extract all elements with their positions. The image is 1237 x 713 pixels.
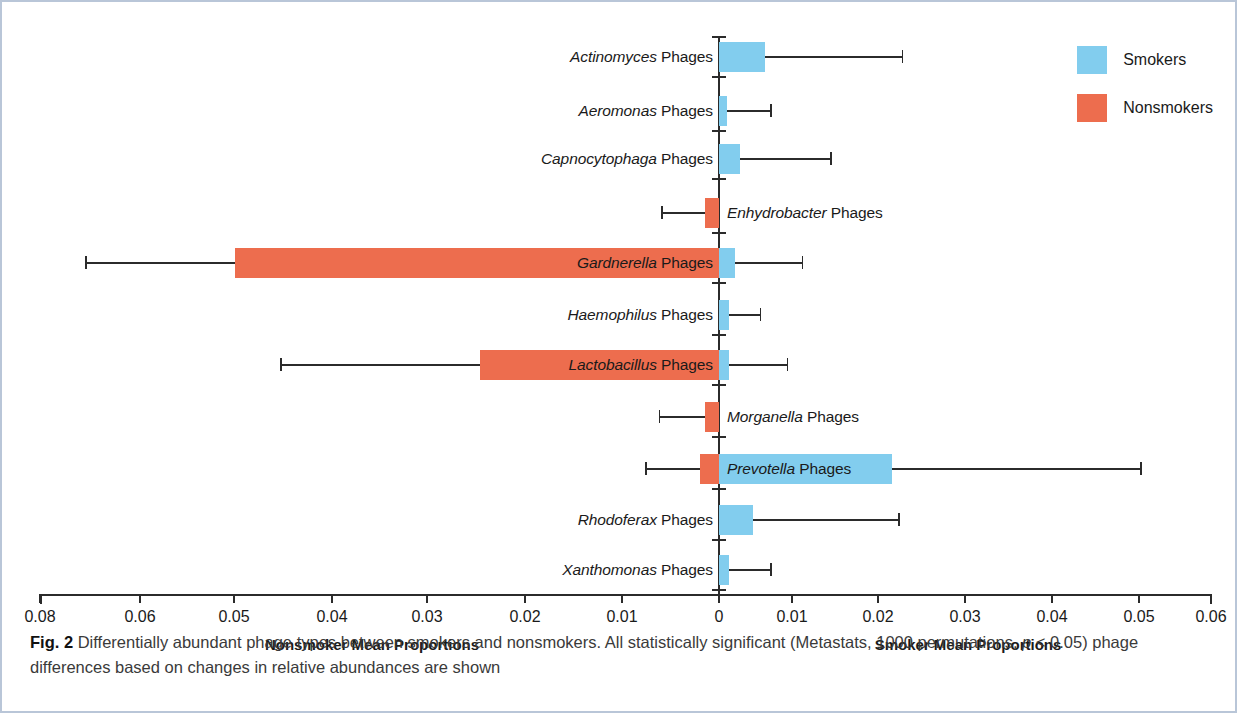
- row-label-suffix: Phages: [657, 150, 713, 167]
- error-bar-cap-nonsmoker: [280, 358, 282, 371]
- legend-label-nonsmokers: Nonsmokers: [1123, 99, 1213, 117]
- chart-row: Gardnerella Phages: [2, 248, 1237, 278]
- category-axis-tick: [712, 178, 726, 180]
- error-bar-cap-smoker: [760, 308, 762, 321]
- error-bar-cap-smoker: [902, 50, 904, 63]
- bar-smoker: [719, 248, 735, 278]
- x-axis-tick-mark: [1138, 594, 1140, 603]
- error-bar-smoker: [753, 519, 898, 521]
- x-axis-tick-label: 0.05: [218, 608, 249, 626]
- x-axis-tick-mark: [39, 594, 41, 603]
- error-bar-cap-nonsmoker: [659, 410, 661, 423]
- bar-smoker: [719, 96, 727, 126]
- bar-nonsmoker: [700, 454, 719, 484]
- error-bar-cap-smoker: [898, 513, 900, 526]
- figure-caption-text-1: Differentially abundant phage types betw…: [78, 633, 1022, 651]
- x-axis-tick-label: 0.08: [24, 608, 55, 626]
- x-axis-tick-label: 0: [715, 608, 724, 626]
- bar-smoker: [719, 505, 753, 535]
- row-label-genus: Haemophilus: [567, 306, 656, 323]
- row-label-genus: Lactobacillus: [569, 356, 657, 373]
- row-label-genus: Enhydrobacter: [727, 204, 827, 221]
- row-label-genus: Rhodoferax: [578, 511, 657, 528]
- x-axis-tick-label: 0.01: [776, 608, 807, 626]
- error-bar-nonsmoker: [280, 364, 480, 366]
- error-bar-cap-smoker: [830, 152, 832, 165]
- chart-row: Capnocytophaga Phages: [2, 144, 1237, 174]
- figure-caption-label: Fig. 2: [30, 633, 73, 651]
- x-axis-tick-mark: [139, 594, 141, 603]
- row-label-suffix: Phages: [657, 561, 713, 578]
- chart-row: Aeromonas Phages: [2, 96, 1237, 126]
- row-label-suffix: Phages: [803, 408, 859, 425]
- x-axis-tick-mark: [621, 594, 623, 603]
- row-label-suffix: Phages: [657, 511, 713, 528]
- x-axis-tick-mark: [964, 594, 966, 603]
- error-bar-cap-smoker: [802, 256, 804, 269]
- x-axis-tick-label: 0.06: [1195, 608, 1226, 626]
- chart-row: Morganella Phages: [2, 402, 1237, 432]
- legend-swatch-nonsmokers-icon: [1077, 94, 1107, 122]
- row-label-lactobacillus: Lactobacillus Phages: [569, 356, 714, 374]
- category-axis-tick: [712, 589, 726, 591]
- error-bar-cap-nonsmoker: [85, 256, 87, 269]
- x-axis-tick-mark: [233, 594, 235, 603]
- x-axis-tick-label: 0.03: [411, 608, 442, 626]
- category-axis-tick: [712, 384, 726, 386]
- error-bar-smoker: [729, 364, 787, 366]
- zero-axis-top-cap: [712, 36, 726, 38]
- row-label-suffix: Phages: [657, 254, 713, 271]
- x-axis-tick-mark: [1051, 594, 1053, 603]
- error-bar-smoker: [740, 158, 830, 160]
- x-axis-tick-label: 0.02: [862, 608, 893, 626]
- category-axis-tick: [712, 334, 726, 336]
- row-label-genus: Morganella: [727, 408, 803, 425]
- x-axis-tick-label: 0.06: [124, 608, 155, 626]
- row-label-prevotella: Prevotella Phages: [727, 460, 851, 478]
- row-label-gardnerella: Gardnerella Phages: [577, 254, 713, 272]
- row-label-morganella: Morganella Phages: [727, 408, 859, 426]
- x-axis-line: [40, 594, 1212, 596]
- row-label-genus: Actinomyces: [570, 48, 657, 65]
- row-label-rhodoferax: Rhodoferax Phages: [578, 511, 713, 529]
- error-bar-smoker: [729, 569, 771, 571]
- row-label-genus: Aeromonas: [578, 102, 656, 119]
- x-axis-tick-mark: [331, 594, 333, 603]
- category-axis-tick: [712, 436, 726, 438]
- error-bar-smoker: [727, 110, 771, 112]
- error-bar-nonsmoker: [661, 212, 704, 214]
- figure-caption-body: Differentially abundant phage types betw…: [30, 633, 1138, 676]
- error-bar-nonsmoker: [659, 416, 705, 418]
- row-label-suffix: Phages: [827, 204, 883, 221]
- category-axis-tick: [712, 539, 726, 541]
- error-bar-cap-smoker: [1140, 462, 1142, 475]
- row-label-suffix: Phages: [657, 102, 713, 119]
- row-label-haemophilus: Haemophilus Phages: [567, 306, 713, 324]
- chart-row: Actinomyces Phages: [2, 42, 1237, 72]
- row-label-enhydrobacter: Enhydrobacter Phages: [727, 204, 883, 222]
- bar-nonsmoker: [705, 198, 719, 228]
- row-label-actinomyces: Actinomyces Phages: [570, 48, 713, 66]
- chart-row: Haemophilus Phages: [2, 300, 1237, 330]
- category-axis-tick: [712, 282, 726, 284]
- x-axis-tick-mark: [718, 594, 720, 603]
- row-label-xanthomonas: Xanthomonas Phages: [562, 561, 713, 579]
- category-axis-tick: [712, 232, 726, 234]
- x-axis-tick-label: 0.04: [1036, 608, 1067, 626]
- row-label-suffix: Phages: [657, 306, 713, 323]
- error-bar-smoker: [729, 314, 760, 316]
- row-label-genus: Gardnerella: [577, 254, 657, 271]
- error-bar-nonsmoker: [85, 262, 235, 264]
- x-axis-tick-label: 0.01: [606, 608, 637, 626]
- category-axis-tick: [712, 130, 726, 132]
- x-axis-tick-label: 0.03: [949, 608, 980, 626]
- error-bar-cap-smoker: [770, 104, 772, 117]
- chart-row: Prevotella Phages: [2, 454, 1237, 484]
- error-bar-smoker: [892, 468, 1140, 470]
- figure-caption: Fig. 2 Differentially abundant phage typ…: [30, 630, 1210, 680]
- legend-item-nonsmokers: Nonsmokers: [1077, 94, 1213, 122]
- row-label-suffix: Phages: [795, 460, 851, 477]
- bar-smoker: [719, 300, 729, 330]
- x-axis-tick-mark: [426, 594, 428, 603]
- bar-smoker: [719, 350, 729, 380]
